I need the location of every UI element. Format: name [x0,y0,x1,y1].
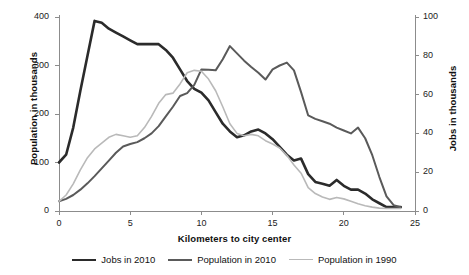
y-axis-left-tick-label: 0 [15,205,49,215]
x-axis-tick-label: 0 [44,218,74,228]
legend-color-swatch [168,259,192,261]
y-axis-right-tick-label: 40 [423,127,457,137]
y-axis-right-tick-label: 100 [423,11,457,21]
y-axis-right-tick-label: 20 [423,166,457,176]
chart-legend: Jobs in 2010Population in 2010Population… [0,254,469,265]
y-axis-right-tick-label: 60 [423,89,457,99]
legend-item[interactable]: Population in 1990 [289,254,397,265]
legend-color-swatch [289,259,313,260]
series-line [59,21,401,207]
series-line [59,46,401,207]
x-axis-tick-label: 25 [400,218,430,228]
y-axis-left-tick-label: 400 [15,11,49,21]
x-axis-tick-label: 20 [329,218,359,228]
y-axis-right-tick-label: 80 [423,50,457,60]
chart-container: Population in thousands Jobs in thousand… [0,0,469,275]
legend-item[interactable]: Jobs in 2010 [72,254,155,265]
y-axis-left-tick-label: 200 [15,108,49,118]
legend-label: Population in 2010 [197,254,276,265]
data-series-group [59,21,401,209]
axis-tick-marks [55,17,419,215]
y-axis-right-tick-label: 0 [423,205,457,215]
x-axis-title: Kilometers to city center [0,233,469,244]
legend-label: Population in 1990 [318,254,397,265]
legend-label: Jobs in 2010 [101,254,155,265]
x-axis-tick-label: 10 [186,218,216,228]
x-axis-tick-label: 5 [115,218,145,228]
legend-item[interactable]: Population in 2010 [168,254,276,265]
axis-lines [59,15,415,211]
legend-color-swatch [72,259,96,261]
y-axis-left-tick-label: 300 [15,60,49,70]
x-axis-tick-label: 15 [258,218,288,228]
y-axis-left-tick-label: 100 [15,157,49,167]
